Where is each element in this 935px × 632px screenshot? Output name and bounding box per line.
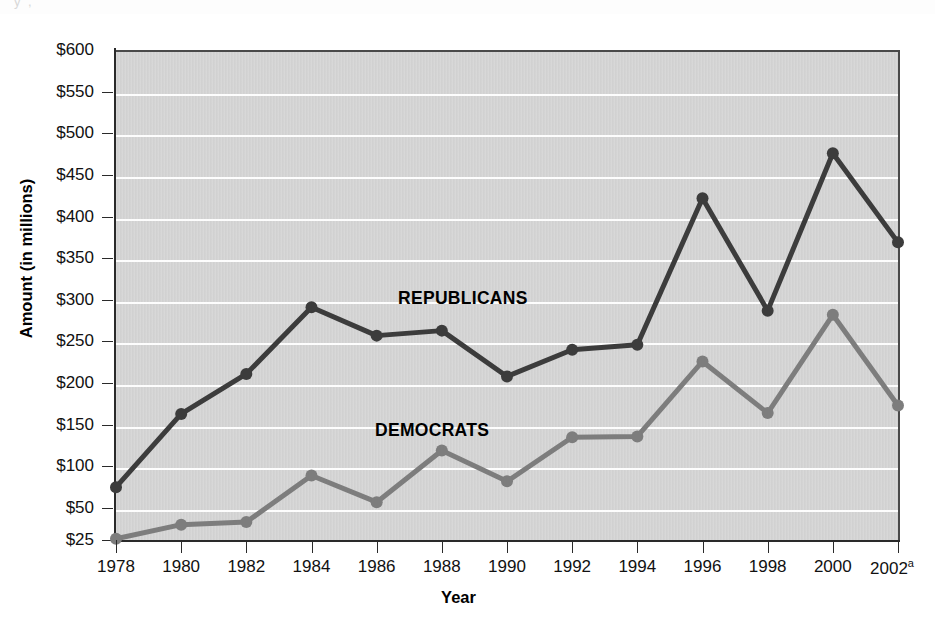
x-axis-tick-mark: [507, 540, 508, 553]
x-axis-tick-label: 2000: [814, 557, 852, 577]
x-axis-tick-mark: [377, 540, 378, 553]
x-axis-tick-mark: [833, 540, 834, 553]
x-axis-tick-label: 1992: [553, 557, 591, 577]
x-axis-tick-mark: [768, 540, 769, 553]
x-axis-tick-label: 1996: [684, 557, 722, 577]
x-axis-tick-mark: [246, 540, 247, 553]
data-point-marker: [827, 309, 839, 321]
x-axis-tick-label: 1984: [293, 557, 331, 577]
data-point-marker: [631, 430, 643, 442]
data-point-marker: [892, 236, 904, 248]
x-axis-tick-label: 1988: [423, 557, 461, 577]
data-point-marker: [827, 147, 839, 159]
x-axis-tick-mark: [572, 540, 573, 553]
series-line-democrats: [116, 315, 898, 539]
data-series-layer: [0, 0, 935, 632]
x-axis-tick-label: 1978: [97, 557, 135, 577]
data-point-marker: [371, 330, 383, 342]
x-axis-tick-mark: [703, 540, 704, 553]
series-line-republicans: [116, 153, 898, 487]
data-point-marker: [175, 519, 187, 531]
x-axis-tick-label: 1982: [227, 557, 265, 577]
data-point-marker: [631, 339, 643, 351]
data-point-marker: [892, 400, 904, 412]
data-point-marker: [436, 445, 448, 457]
x-axis-tick-mark: [116, 540, 117, 553]
data-point-marker: [501, 475, 513, 487]
x-axis-tick-label: 1990: [488, 557, 526, 577]
x-axis-tick-label: 2002a: [870, 557, 914, 579]
x-axis-tick-mark: [312, 540, 313, 553]
democrats-label: DEMOCRATS: [375, 420, 489, 441]
data-point-marker: [371, 496, 383, 508]
x-axis-tick-label: 1998: [749, 557, 787, 577]
data-point-marker: [566, 431, 578, 443]
data-point-marker: [240, 516, 252, 528]
data-point-marker: [501, 370, 513, 382]
x-axis-footnote-marker: a: [908, 557, 914, 569]
data-point-marker: [306, 470, 318, 482]
data-point-marker: [175, 408, 187, 420]
data-point-marker: [697, 355, 709, 367]
data-point-marker: [762, 305, 774, 317]
data-point-marker: [436, 325, 448, 337]
data-point-marker: [697, 192, 709, 204]
x-axis-tick-mark: [898, 540, 899, 553]
x-axis-tick-labels: 1978198019821984198619881990199219941996…: [0, 540, 935, 632]
x-axis-tick-label: 1980: [162, 557, 200, 577]
data-point-marker: [110, 481, 122, 493]
x-axis-tick-mark: [637, 540, 638, 553]
x-axis-tick-mark: [442, 540, 443, 553]
data-point-marker: [240, 368, 252, 380]
republicans-label: REPUBLICANS: [398, 288, 528, 309]
data-point-marker: [306, 301, 318, 313]
x-axis-tick-label: 1986: [358, 557, 396, 577]
data-point-marker: [566, 344, 578, 356]
x-axis-tick-label: 1994: [618, 557, 656, 577]
x-axis-tick-mark: [181, 540, 182, 553]
chart-container: y , Amount (in millions) $600$550$500$45…: [0, 0, 935, 632]
data-point-marker: [762, 407, 774, 419]
